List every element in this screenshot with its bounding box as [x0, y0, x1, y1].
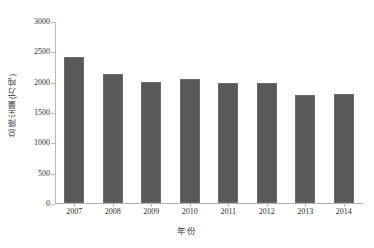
x-axis-tick-label: 2011 — [209, 207, 248, 217]
y-axis-tick-label: 2500 — [20, 48, 50, 56]
chart-screenshot: 总降尘量(万吨) 050010001500200025003000 200720… — [0, 0, 374, 248]
x-axis-tick-label: 2012 — [248, 207, 287, 217]
y-axis-tick-label: 500 — [20, 170, 50, 178]
y-axis-tick-mark — [51, 143, 55, 144]
bar — [334, 94, 354, 203]
y-axis-line — [55, 22, 56, 204]
x-axis-tick-label: 2008 — [94, 207, 133, 217]
x-axis-tick-label: 2010 — [171, 207, 210, 217]
bar — [295, 95, 315, 203]
y-axis-tick-mark — [51, 83, 55, 84]
y-axis-tick-label: 3000 — [20, 18, 50, 26]
plot-area — [55, 22, 363, 204]
y-axis-tick-mark — [51, 204, 55, 205]
y-axis-tick-label: 2000 — [20, 79, 50, 87]
y-axis-tick-label: 1500 — [20, 109, 50, 117]
x-axis-tick-label: 2009 — [132, 207, 171, 217]
y-axis-tick-mark — [51, 174, 55, 175]
x-axis-tick-label: 2014 — [325, 207, 364, 217]
bar — [141, 82, 161, 203]
bar — [180, 79, 200, 203]
bar — [64, 57, 84, 203]
x-axis-line — [55, 203, 363, 204]
y-axis-tick-mark — [51, 113, 55, 114]
x-axis-tick-label: 2007 — [55, 207, 94, 217]
x-axis-tick-labels: 20072008200920102011201220132014 — [55, 207, 363, 221]
y-axis-title-label: 总降尘量(万吨) — [7, 73, 19, 137]
y-axis-tick-mark — [51, 52, 55, 53]
y-axis-tick-label: 0 — [20, 200, 50, 208]
bar — [257, 83, 277, 203]
y-axis-tick-label: 1000 — [20, 139, 50, 147]
y-axis-tick-labels: 050010001500200025003000 — [20, 0, 50, 248]
x-axis-tick-label: 2013 — [286, 207, 325, 217]
y-axis-tick-mark — [51, 22, 55, 23]
bar — [103, 74, 123, 203]
bar — [218, 83, 238, 203]
x-axis-title: 年份 — [0, 224, 374, 236]
